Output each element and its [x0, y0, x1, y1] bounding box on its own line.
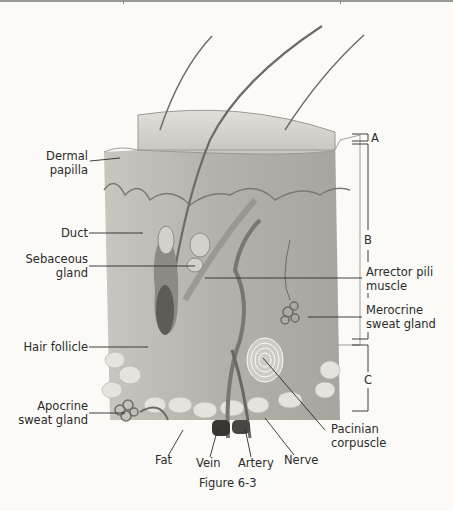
label-line: Pacinian — [331, 422, 386, 436]
label-merocrine-sweat-gland: Merocrine sweat gland — [366, 303, 436, 331]
label-line: Merocrine — [366, 303, 436, 317]
label-layer-a: A — [371, 131, 379, 145]
label-pacinian-corpuscle: Pacinian corpuscle — [331, 422, 386, 450]
label-line: muscle — [366, 279, 433, 293]
label-line: Apocrine — [10, 399, 88, 413]
label-line: Arrector pili — [366, 265, 433, 279]
label-line: papilla — [44, 163, 88, 177]
label-apocrine-sweat-gland: Apocrine sweat gland — [10, 399, 88, 427]
artery-cross-section — [232, 420, 250, 434]
label-sebaceous-gland: Sebaceous gland — [20, 252, 88, 280]
label-layer-c: C — [364, 373, 372, 387]
label-line: gland — [20, 266, 88, 280]
label-nerve: Nerve — [284, 453, 318, 467]
figure-caption: Figure 6-3 — [199, 476, 257, 490]
label-line: Sebaceous — [20, 252, 88, 266]
vein-cross-section — [212, 420, 230, 436]
label-vein: Vein — [196, 456, 221, 470]
label-line: corpuscle — [331, 436, 386, 450]
label-line: sweat gland — [366, 317, 436, 331]
label-dermal-papilla: Dermal papilla — [44, 149, 88, 177]
label-line: sweat gland — [10, 413, 88, 427]
label-arrector-pili-muscle: Arrector pili muscle — [366, 265, 433, 293]
label-artery: Artery — [238, 456, 274, 470]
label-duct: Duct — [44, 226, 88, 240]
label-line: Dermal — [44, 149, 88, 163]
label-hair-follicle: Hair follicle — [10, 340, 88, 354]
label-fat: Fat — [155, 453, 172, 467]
label-layer-b: B — [364, 233, 372, 247]
